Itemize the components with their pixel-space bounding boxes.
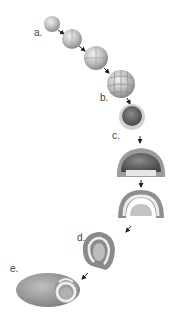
arrow-icon	[104, 68, 109, 73]
cleavage-stage	[84, 46, 108, 70]
arrow-icon	[127, 98, 130, 104]
early-gastrula-stage	[117, 148, 165, 177]
gastrula-fold-stage	[83, 232, 115, 270]
zygote-stage	[44, 16, 60, 32]
morula-stage	[107, 70, 135, 98]
gastrula-arch-stage	[118, 190, 164, 218]
stage-label-c: c.	[112, 131, 120, 141]
stage-label-a: a.	[34, 28, 42, 38]
arrow-icon	[82, 273, 88, 279]
diagram-canvas	[0, 0, 173, 328]
stage-label-e: e.	[10, 264, 18, 274]
stage-label-d: d.	[77, 233, 85, 243]
arrow-icon	[79, 46, 85, 51]
arrow-icon	[126, 226, 131, 232]
arrow-icon	[58, 30, 64, 34]
stage-label-b: b.	[100, 93, 108, 103]
neurula-stage	[16, 273, 80, 307]
embryo-development-diagram: a. b. c. d. e.	[0, 0, 173, 328]
blastula-stage	[119, 104, 145, 130]
